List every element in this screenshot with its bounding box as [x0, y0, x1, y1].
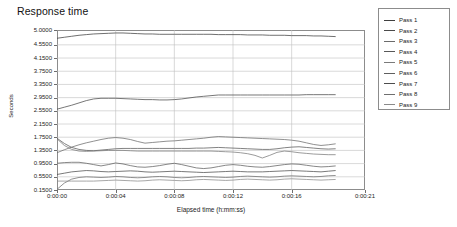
y-tick-label: 5.0000	[8, 27, 52, 33]
y-tick-label: 1.7500	[8, 134, 52, 140]
x-tick-label: 0:00:21	[345, 193, 385, 199]
legend-swatch-icon	[384, 83, 395, 84]
legend-swatch-icon	[384, 94, 395, 95]
y-tick-label: 0.9500	[8, 160, 52, 166]
y-tick-label: 0.1500	[8, 187, 52, 193]
y-tick-label: 2.1500	[8, 121, 52, 127]
legend-item-label: Pass 9	[399, 102, 417, 108]
x-tick-mark	[365, 190, 366, 193]
x-tick-mark	[174, 190, 175, 193]
legend-item-label: Pass 6	[399, 70, 417, 76]
chart-title: Response time	[17, 5, 88, 17]
x-tick-mark	[292, 190, 293, 193]
x-tick-label: 0:00:08	[154, 193, 194, 199]
x-axis-label: Elapsed time (h:mm:ss)	[57, 206, 365, 213]
series-line	[57, 33, 336, 38]
legend-item[interactable]: Pass 1	[384, 15, 417, 25]
series-line	[57, 95, 336, 110]
plot-lines	[57, 30, 365, 190]
series-line	[57, 171, 336, 175]
x-tick-label: 0:00:04	[96, 193, 136, 199]
x-tick-mark	[233, 190, 234, 193]
response-time-chart: Response time Seconds 5.00004.55004.1500…	[0, 0, 457, 227]
y-tick-label: 3.7500	[8, 68, 52, 74]
legend-swatch-icon	[384, 104, 395, 105]
x-tick-mark	[116, 190, 117, 193]
x-tick-label: 0:00:00	[37, 193, 77, 199]
x-tick-label: 0:00:12	[213, 193, 253, 199]
y-tick-label: 4.1500	[8, 55, 52, 61]
legend-item-label: Pass 2	[399, 28, 417, 34]
legend-swatch-icon	[384, 30, 395, 31]
legend-swatch-icon	[384, 51, 395, 52]
legend-item[interactable]: Pass 3	[384, 36, 417, 46]
y-tick-label: 2.5500	[8, 107, 52, 113]
y-tick-label: 1.3500	[8, 147, 52, 153]
legend-item[interactable]: Pass 6	[384, 68, 417, 78]
y-tick-label: 0.5500	[8, 173, 52, 179]
legend-item-label: Pass 5	[399, 59, 417, 65]
x-tick-mark	[57, 190, 58, 193]
series-line	[57, 179, 336, 181]
legend-swatch-icon	[384, 62, 395, 63]
legend-item[interactable]: Pass 8	[384, 89, 417, 99]
y-tick-label: 2.9500	[8, 94, 52, 100]
legend-item-label: Pass 7	[399, 81, 417, 87]
series-line	[57, 162, 336, 168]
x-tick-label: 0:00:16	[272, 193, 312, 199]
legend-swatch-icon	[384, 73, 395, 74]
legend-item[interactable]: Pass 5	[384, 57, 417, 67]
series-line	[57, 175, 336, 189]
legend-item[interactable]: Pass 4	[384, 47, 417, 57]
legend-swatch-icon	[384, 41, 395, 42]
legend-item-label: Pass 4	[399, 49, 417, 55]
legend-item-label: Pass 3	[399, 38, 417, 44]
legend-item[interactable]: Pass 9	[384, 100, 417, 110]
legend-item[interactable]: Pass 2	[384, 26, 417, 36]
y-tick-label: 3.3500	[8, 81, 52, 87]
legend-item-label: Pass 1	[399, 17, 417, 23]
legend-swatch-icon	[384, 20, 395, 21]
chart-legend: Pass 1Pass 2Pass 3Pass 4Pass 5Pass 6Pass…	[378, 8, 450, 110]
legend-item[interactable]: Pass 7	[384, 79, 417, 89]
legend-item-label: Pass 8	[399, 91, 417, 97]
y-tick-label: 4.5500	[8, 41, 52, 47]
